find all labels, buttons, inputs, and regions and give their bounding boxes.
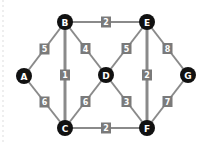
node-label: E	[144, 18, 150, 28]
node-label: A	[21, 72, 28, 82]
edge-weight-label: 7	[163, 96, 173, 107]
edge-weight-label: 6	[40, 97, 50, 108]
weight-text: 1	[62, 71, 68, 80]
weight-text: 7	[165, 98, 171, 107]
weight-text: 8	[165, 45, 171, 54]
weight-text: 2	[103, 18, 109, 27]
node-b: B	[57, 14, 73, 30]
node-label: G	[184, 71, 191, 81]
edge-weight-label: 2	[101, 17, 111, 28]
edge-weight-label: 5	[40, 44, 50, 55]
edge-weight-label: 5	[122, 43, 132, 54]
edge-weight-label: 8	[163, 43, 173, 54]
nodes-layer: ABCDEFG	[16, 14, 196, 136]
graph-diagram: 561426253287 ABCDEFG	[0, 0, 205, 145]
node-label: D	[102, 71, 109, 81]
weight-text: 5	[124, 45, 130, 54]
edge-weight-label: 2	[101, 123, 111, 134]
node-f: F	[139, 120, 155, 136]
weight-text: 4	[83, 45, 89, 54]
edge-weight-label: 1	[60, 70, 70, 81]
node-c: C	[57, 120, 73, 136]
weight-text: 6	[83, 98, 89, 107]
weight-text: 2	[103, 124, 109, 133]
node-label: F	[144, 124, 150, 134]
node-e: E	[139, 14, 155, 30]
edge-weight-label: 3	[122, 96, 132, 107]
node-a: A	[16, 68, 32, 84]
edge-weight-label: 4	[81, 43, 91, 54]
node-d: D	[98, 67, 114, 83]
node-label: B	[62, 18, 69, 28]
weight-text: 2	[144, 71, 150, 80]
weight-text: 5	[42, 45, 48, 54]
node-g: G	[180, 67, 196, 83]
node-label: C	[62, 124, 69, 134]
edge-weight-label: 6	[81, 96, 91, 107]
weight-text: 6	[42, 98, 48, 107]
weight-text: 3	[124, 98, 130, 107]
edge-weight-label: 2	[142, 70, 152, 81]
